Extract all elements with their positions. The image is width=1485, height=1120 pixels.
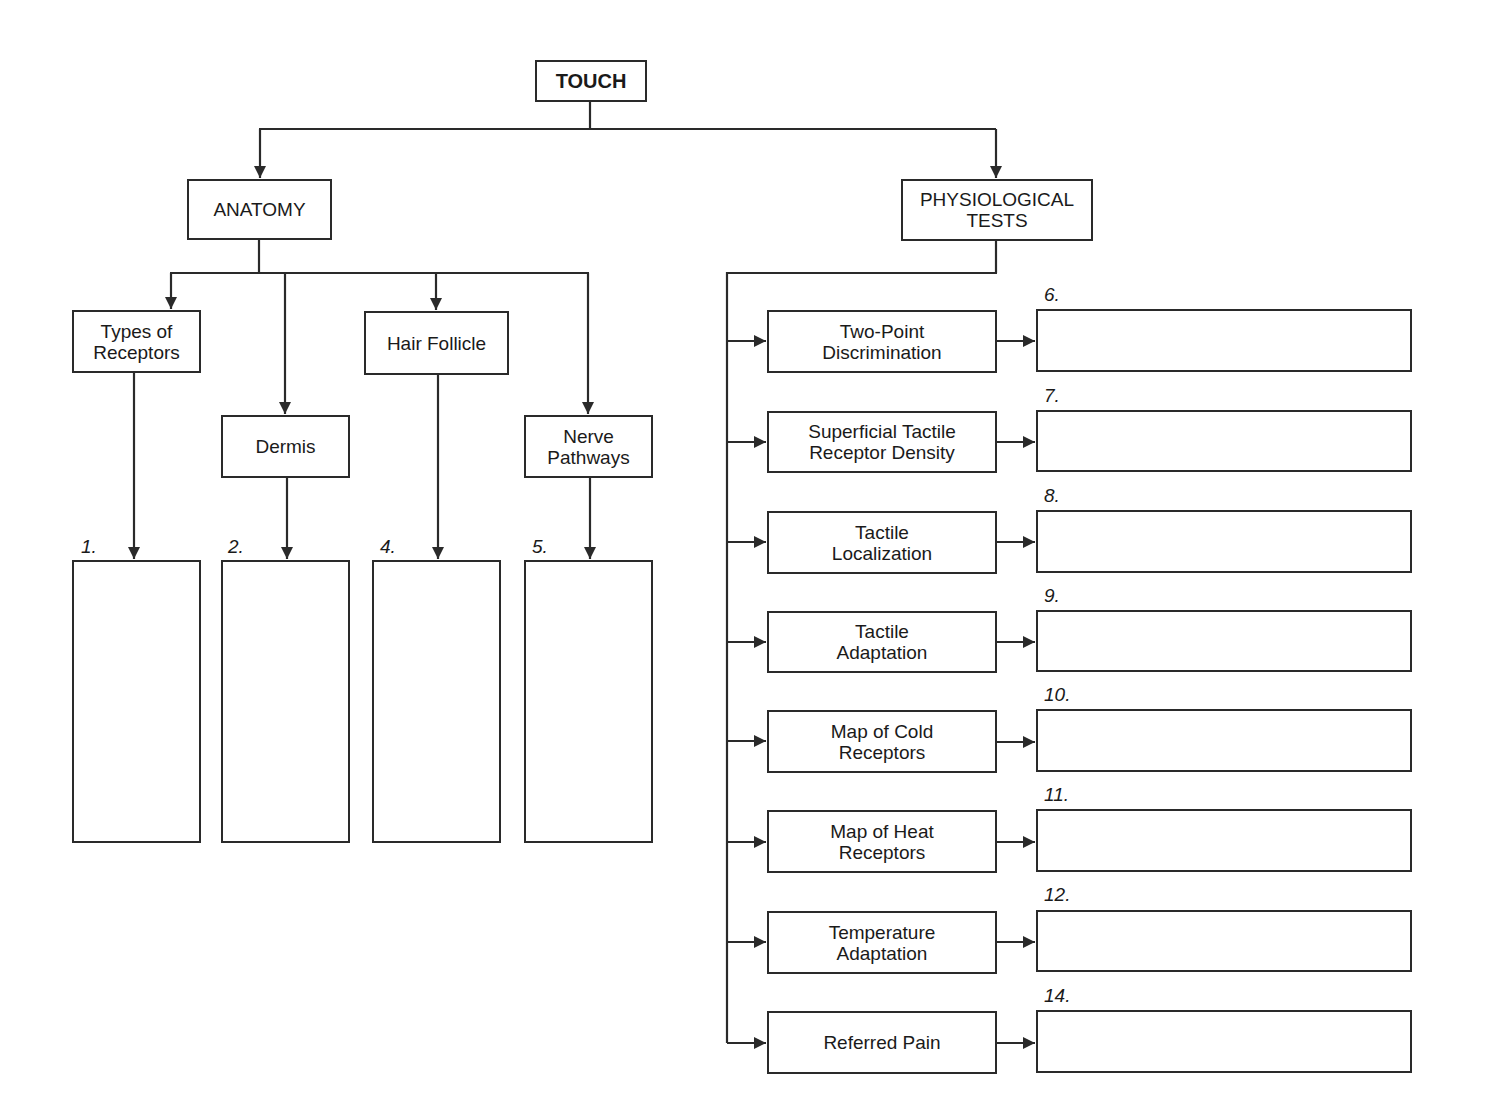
answer-number-9: 9. xyxy=(1044,586,1060,606)
answer-box-8[interactable] xyxy=(1036,510,1412,573)
node-touch: TOUCH xyxy=(535,60,647,102)
answer-number-12: 12. xyxy=(1044,885,1070,905)
answer-box-9[interactable] xyxy=(1036,610,1412,672)
answer-box-14[interactable] xyxy=(1036,1010,1412,1073)
answer-number-1: 1. xyxy=(81,537,97,557)
node-map-of-cold-receptors: Map of Cold Receptors xyxy=(767,710,997,773)
node-types-of-receptors: Types of Receptors xyxy=(72,310,201,373)
node-two-point-discrimination: Two-Point Discrimination xyxy=(767,310,997,373)
node-referred-pain: Referred Pain xyxy=(767,1011,997,1074)
answer-number-14: 14. xyxy=(1044,986,1070,1006)
answer-box-6[interactable] xyxy=(1036,309,1412,372)
answer-box-7[interactable] xyxy=(1036,410,1412,472)
node-hair-follicle: Hair Follicle xyxy=(364,311,509,375)
answer-box-10[interactable] xyxy=(1036,709,1412,772)
answer-box-12[interactable] xyxy=(1036,910,1412,972)
answer-number-2: 2. xyxy=(228,537,244,557)
node-map-of-heat-receptors: Map of Heat Receptors xyxy=(767,810,997,873)
answer-number-8: 8. xyxy=(1044,486,1060,506)
node-tactile-localization: Tactile Localization xyxy=(767,511,997,574)
node-superficial-tactile-receptor-density: Superficial Tactile Receptor Density xyxy=(767,411,997,473)
answer-box-2[interactable] xyxy=(221,560,350,843)
answer-number-6: 6. xyxy=(1044,285,1060,305)
answer-box-11[interactable] xyxy=(1036,809,1412,872)
answer-box-4[interactable] xyxy=(372,560,501,843)
node-physiological-tests: PHYSIOLOGICAL TESTS xyxy=(901,179,1093,241)
answer-number-11: 11. xyxy=(1044,785,1069,805)
answer-box-5[interactable] xyxy=(524,560,653,843)
answer-number-7: 7. xyxy=(1044,386,1060,406)
answer-number-10: 10. xyxy=(1044,685,1070,705)
answer-number-4: 4. xyxy=(380,537,396,557)
node-temperature-adaptation: Temperature Adaptation xyxy=(767,911,997,974)
answer-box-1[interactable] xyxy=(72,560,201,843)
node-dermis: Dermis xyxy=(221,415,350,478)
node-nerve-pathways: Nerve Pathways xyxy=(524,415,653,478)
node-anatomy: ANATOMY xyxy=(187,179,332,240)
node-tactile-adaptation: Tactile Adaptation xyxy=(767,611,997,673)
answer-number-5: 5. xyxy=(532,537,548,557)
